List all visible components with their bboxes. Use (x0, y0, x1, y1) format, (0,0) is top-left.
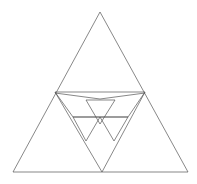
nested-triangles-figure (0, 0, 197, 184)
